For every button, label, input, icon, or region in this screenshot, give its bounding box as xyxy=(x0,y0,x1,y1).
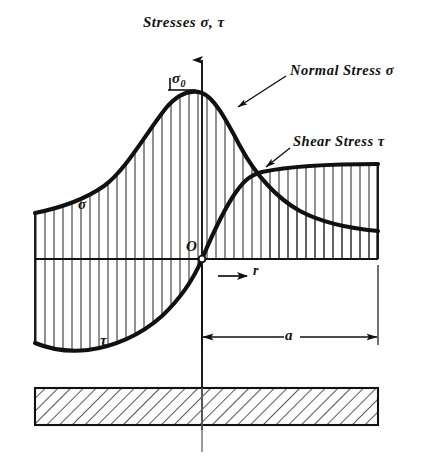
stress-distribution-figure: Stresses σ, τ σ0 Normal Stress σ Shear S… xyxy=(0,0,421,472)
peak-sigma0-subscript: 0 xyxy=(181,78,187,89)
peak-sigma0-label: σ0 xyxy=(172,70,186,89)
dimension-a-label: a xyxy=(285,327,293,344)
sigma-hatch-lines xyxy=(36,80,377,262)
sigma-upper-hatch-region xyxy=(36,80,377,262)
r-axis-label: r xyxy=(253,263,259,279)
normal-stress-callout-leader xyxy=(238,76,286,107)
normal-stress-callout-label: Normal Stress σ xyxy=(290,62,394,79)
shear-stress-callout-label: Shear Stress τ xyxy=(293,133,385,150)
sigma-curve-label: σ xyxy=(78,196,87,213)
material-block xyxy=(35,388,378,425)
shear-stress-callout-leader xyxy=(266,148,290,167)
tau-curve-label: τ xyxy=(100,332,107,349)
origin-label: O xyxy=(186,238,197,255)
peak-sigma0-symbol: σ xyxy=(172,70,181,86)
material-block-hatch xyxy=(35,388,378,425)
y-axis-title: Stresses σ, τ xyxy=(143,14,225,31)
origin-marker xyxy=(199,256,206,263)
